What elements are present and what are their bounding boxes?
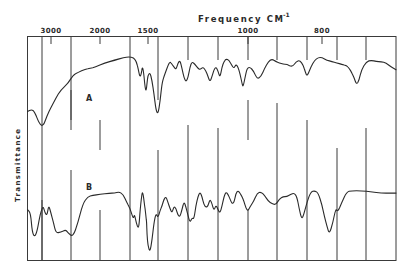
x-axis-ticks: 3000200015001000800 — [40, 27, 329, 44]
curve-label-b: B — [86, 183, 92, 192]
spectra — [28, 57, 397, 250]
x-tick-label-3000: 3000 — [40, 27, 61, 35]
ir-spectrum-chart: Frequency CM -1 3000200015001000800 A B … — [0, 0, 413, 275]
y-axis-label: Transmittance — [14, 127, 22, 202]
gridlines — [42, 37, 366, 261]
x-tick-label-1500: 1500 — [137, 27, 158, 35]
spectrum-curve-a — [28, 57, 397, 125]
x-tick-label-2000: 2000 — [89, 27, 110, 35]
curve-label-a: A — [86, 94, 93, 103]
chart-title: Frequency CM — [198, 14, 285, 24]
chart-title-superscript: -1 — [283, 11, 290, 18]
spectrum-curve-b — [28, 191, 397, 250]
x-tick-label-1000: 1000 — [237, 27, 258, 35]
x-tick-label-800: 800 — [314, 27, 330, 35]
